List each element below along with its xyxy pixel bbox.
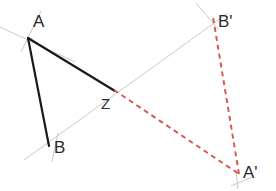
geometry-figure: A B Z A' B' xyxy=(0,0,276,191)
point-label-A-prime: A' xyxy=(243,163,258,182)
point-label-Z: Z xyxy=(101,95,110,112)
point-label-B: B xyxy=(54,138,65,157)
point-label-A: A xyxy=(33,12,45,31)
figure-canvas: A B Z A' B' xyxy=(0,0,276,191)
point-label-B-prime: B' xyxy=(218,12,233,31)
